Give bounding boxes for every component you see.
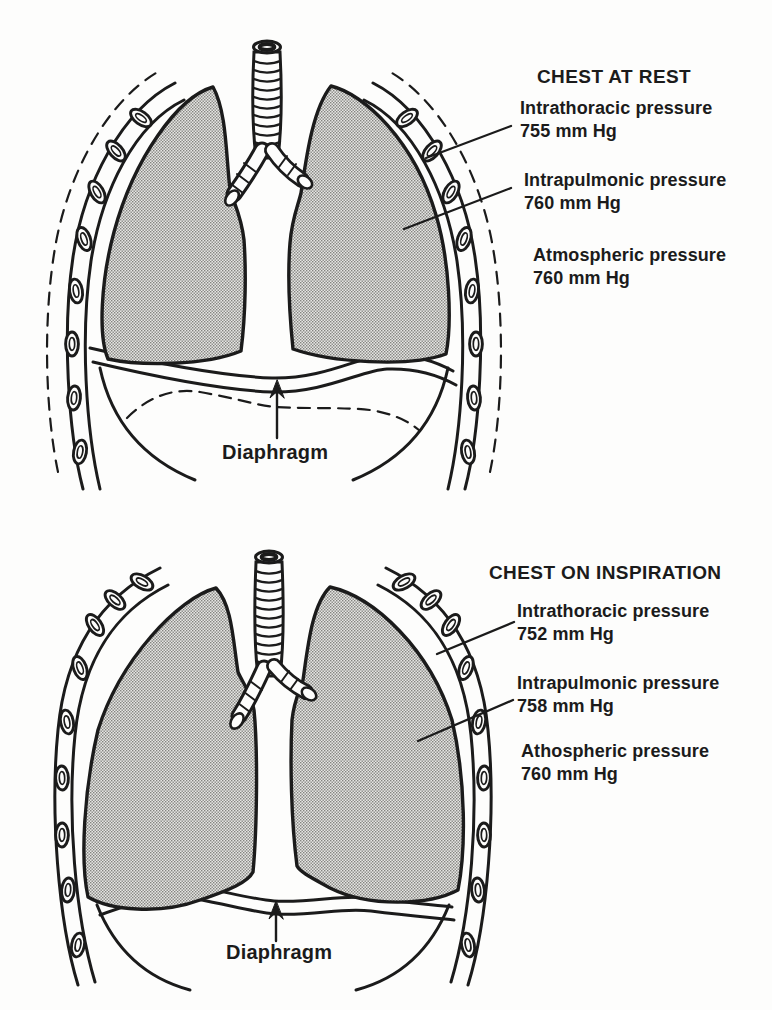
rib-cross-section [471, 877, 486, 902]
costal-margin-left-inspiration [97, 905, 190, 990]
pressure-name: Intrapulmonic pressure [524, 169, 726, 192]
pressure-value: 760 mm Hg [524, 192, 726, 215]
rib-cross-section [477, 823, 490, 847]
rib-cross-section [55, 766, 69, 790]
chest-diagrams-drawing [0, 0, 772, 1010]
pressure-value: 760 mm Hg [521, 763, 709, 786]
rib-cross-section [55, 823, 68, 847]
panel-title-chest-on-inspiration: CHEST ON INSPIRATION [489, 562, 722, 584]
rib-cross-section [477, 766, 491, 790]
pressure-label-atmospheric-rest: Atmospheric pressure 760 mm Hg [533, 244, 726, 290]
diaphragm-arrow-rest [270, 380, 284, 438]
rib-cross-section [467, 385, 482, 410]
pressure-name: Athospheric pressure [521, 740, 709, 763]
pressure-name: Intrathoracic pressure [517, 600, 709, 623]
rib-cross-section [464, 278, 480, 304]
rib-cross-section [439, 178, 462, 205]
pressure-name: Atmospheric pressure [533, 244, 726, 267]
figure-respiratory-pressures: CHEST AT REST Intrathoracic pressure 755… [0, 0, 772, 1010]
pressure-label-intrathoracic-rest: Intrathoracic pressure 755 mm Hg [520, 97, 712, 143]
trachea [222, 41, 314, 208]
pressure-label-athospheric-inspiration: Athospheric pressure 760 mm Hg [521, 740, 709, 786]
panel-title-chest-at-rest: CHEST AT REST [537, 66, 691, 88]
rib-cross-section [128, 106, 155, 130]
rib-cross-section [70, 932, 87, 958]
rib-cross-section [66, 332, 79, 356]
rib-cross-section [59, 709, 76, 735]
pressure-name: Intrapulmonic pressure [517, 672, 719, 695]
rib-cross-section [470, 332, 483, 356]
pressure-name: Intrathoracic pressure [520, 97, 712, 120]
panel-chest-at-rest-drawing [47, 41, 511, 489]
rib-cross-section [454, 226, 474, 253]
pressure-value: 760 mm Hg [533, 267, 726, 290]
pressure-value: 758 mm Hg [517, 695, 719, 718]
rib-cross-section [67, 385, 82, 410]
costal-margin-left [100, 368, 195, 480]
rib-cross-section [70, 655, 90, 682]
rib-cross-section [103, 138, 129, 164]
rib-cross-section [85, 178, 108, 205]
costal-margin-right [353, 368, 448, 480]
diaphragm-arrow-inspiration [269, 901, 283, 941]
rib-cross-section [460, 932, 477, 958]
rib-cross-section [394, 106, 421, 130]
rib-cross-section [419, 138, 445, 164]
pressure-label-intrathoracic-inspiration: Intrathoracic pressure 752 mm Hg [517, 600, 709, 646]
rib-cross-section [61, 877, 76, 902]
diaphragm-label-rest: Diaphragm [222, 441, 328, 464]
pressure-label-intrapulmonic-rest: Intrapulmonic pressure 760 mm Hg [524, 169, 726, 215]
pressure-value: 752 mm Hg [517, 623, 709, 646]
rib-cross-section [456, 655, 476, 682]
pressure-label-intrapulmonic-inspiration: Intrapulmonic pressure 758 mm Hg [517, 672, 719, 718]
rib-cross-section [74, 226, 94, 253]
rib-cross-section [68, 278, 84, 304]
diaphragm-label-inspiration: Diaphragm [226, 941, 332, 964]
left-lung-inspiration [84, 588, 257, 909]
pressure-value: 755 mm Hg [520, 120, 712, 143]
panel-chest-on-inspiration-drawing [55, 551, 514, 990]
dashed-diaphragm-inspiration-position [127, 391, 420, 431]
